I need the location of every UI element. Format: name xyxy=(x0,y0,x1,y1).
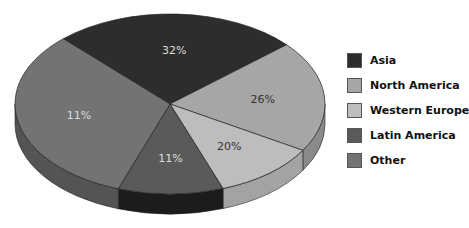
legend-item-other: Other xyxy=(347,148,469,173)
legend-label: Latin America xyxy=(370,129,456,142)
legend-swatch xyxy=(347,153,362,168)
legend-swatch xyxy=(347,53,362,68)
legend-label: Asia xyxy=(370,54,396,67)
legend-item-asia: Asia xyxy=(347,48,469,73)
legend-label: Other xyxy=(370,154,405,167)
pie-slices xyxy=(15,14,325,194)
legend-item-latin-america: Latin America xyxy=(347,123,469,148)
legend-swatch xyxy=(347,128,362,143)
legend-item-western-europe: Western Europe xyxy=(347,98,469,123)
legend-item-north-america: North America xyxy=(347,73,469,98)
pie-label-latin-america: 11% xyxy=(158,152,182,165)
legend-swatch xyxy=(347,103,362,118)
legend: Asia North America Western Europe Latin … xyxy=(347,48,469,173)
pie-label-other: 11% xyxy=(67,109,91,122)
pie-label-north-america: 26% xyxy=(250,93,274,106)
pie-label-western-europe: 20% xyxy=(217,140,241,153)
pie-chart: 32%26%20%11%11% xyxy=(0,0,340,228)
legend-swatch xyxy=(347,78,362,93)
legend-label: Western Europe xyxy=(370,104,469,117)
pie-label-asia: 32% xyxy=(162,44,186,57)
legend-label: North America xyxy=(370,79,460,92)
